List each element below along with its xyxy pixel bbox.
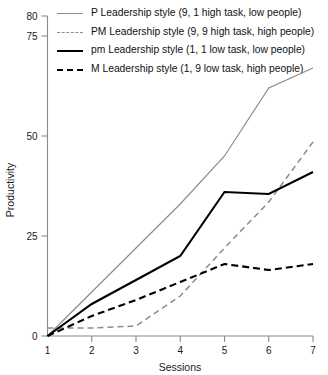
y-tick-label: 0 xyxy=(32,331,38,342)
x-tick-label: 4 xyxy=(177,345,183,356)
series-line-m xyxy=(48,264,314,336)
x-axis-ticks: 1234567 xyxy=(45,336,317,356)
plot-area: 025507580 1234567 Sessions Productivity xyxy=(0,0,328,375)
x-axis-title: Sessions xyxy=(159,361,202,373)
x-tick-label: 5 xyxy=(222,345,228,356)
y-tick-label: 80 xyxy=(26,11,38,22)
x-tick-label: 7 xyxy=(310,345,316,356)
series-line-pm-low xyxy=(48,172,314,336)
chart-container: P Leadership style (9, 1 high task, low … xyxy=(0,0,328,375)
x-tick-label: 1 xyxy=(45,345,51,356)
series-line-pm xyxy=(48,142,314,328)
y-tick-label: 25 xyxy=(26,231,38,242)
y-tick-label: 75 xyxy=(26,31,38,42)
chart-svg: 025507580 1234567 Sessions Productivity xyxy=(0,0,328,375)
x-tick-label: 2 xyxy=(89,345,95,356)
y-axis-title: Productivity xyxy=(4,162,16,217)
y-axis-ticks: 025507580 xyxy=(26,11,47,342)
x-tick-label: 6 xyxy=(266,345,272,356)
x-tick-label: 3 xyxy=(133,345,139,356)
y-tick-label: 50 xyxy=(26,131,38,142)
